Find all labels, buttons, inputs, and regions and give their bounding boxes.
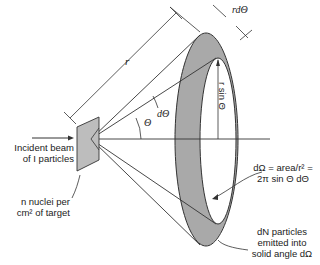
- dtheta-arc: [153, 96, 158, 108]
- label-r-sin-theta: r sin Θ: [217, 82, 228, 110]
- emitted-particles-label: dN particles emitted into solid angle dΩ: [244, 226, 320, 259]
- target-label: n nuclei per cm² of target: [0, 196, 70, 218]
- theta-arc: [136, 118, 141, 139]
- label-dtheta: dΘ: [157, 108, 169, 119]
- solid-angle-label: dΩ = area/r² = 2π sin Θ dΘ: [246, 162, 320, 184]
- solid-angle-ring: [175, 33, 238, 246]
- incident-beam-label: Incident beam of I particles: [0, 142, 74, 164]
- label-r: r: [125, 56, 129, 67]
- label-theta: Θ: [144, 117, 151, 128]
- target-foil: [77, 117, 99, 171]
- label-r-dtheta: rdΘ: [232, 4, 248, 15]
